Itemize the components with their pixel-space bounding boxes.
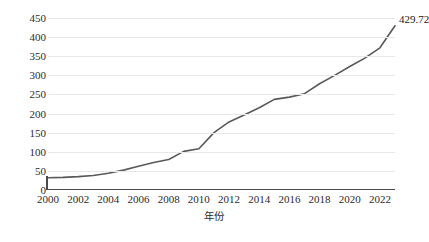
gridline xyxy=(48,171,395,172)
plot-area xyxy=(48,18,395,190)
gridline xyxy=(48,56,395,57)
x-axis-tick-label: 2000 xyxy=(37,193,59,205)
gridline xyxy=(48,133,395,134)
x-axis-tick-label: 2002 xyxy=(67,193,89,205)
gridline xyxy=(48,37,395,38)
x-axis-tick-label: 2004 xyxy=(97,193,119,205)
x-axis-line xyxy=(48,189,395,190)
y-axis-tick-label: 250 xyxy=(14,89,46,99)
x-axis-tick-label: 2012 xyxy=(218,193,240,205)
y-axis-tick-label: 350 xyxy=(14,51,46,61)
x-axis-tick-label: 2010 xyxy=(188,193,210,205)
data-label-final-value: 429.72 xyxy=(399,13,429,25)
gridline xyxy=(48,114,395,115)
gridline xyxy=(48,75,395,76)
x-axis-tick-label: 2006 xyxy=(128,193,150,205)
series-line-gdp xyxy=(48,18,395,190)
y-axis-tick-label: 450 xyxy=(14,13,46,23)
x-axis-tick-label: 2008 xyxy=(158,193,180,205)
x-axis-tick-label: 2022 xyxy=(369,193,391,205)
y-axis-tick-label: 300 xyxy=(14,70,46,80)
x-axis-tick-labels: 2000200220042006200820102012201420162018… xyxy=(48,193,395,209)
x-axis-tick-label: 2016 xyxy=(278,193,300,205)
y-axis-tick-label: 150 xyxy=(14,128,46,138)
x-axis-tick-label: 2014 xyxy=(248,193,270,205)
x-axis-title: 年份 xyxy=(0,208,428,223)
x-axis-tick-label: 2020 xyxy=(339,193,361,205)
gridline xyxy=(48,152,395,153)
gridline xyxy=(48,94,395,95)
x-axis-tick-label: 2018 xyxy=(309,193,331,205)
y-axis-tick-label: 400 xyxy=(14,32,46,42)
gridline xyxy=(48,18,395,19)
y-axis-tick-label: 50 xyxy=(14,166,46,176)
y-axis-tick-label: 200 xyxy=(14,109,46,119)
y-axis-origin-tick xyxy=(46,176,48,190)
y-axis-tick-label: 100 xyxy=(14,147,46,157)
y-axis-tick-labels: 050100150200250300350400450 xyxy=(14,0,46,242)
